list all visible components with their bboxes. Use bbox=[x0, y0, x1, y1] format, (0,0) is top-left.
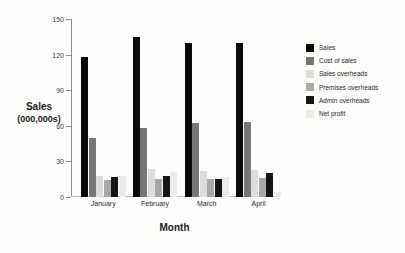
bar bbox=[185, 43, 192, 197]
y-axis-tick-label: 60 bbox=[56, 122, 64, 129]
bar bbox=[133, 37, 140, 197]
y-axis-tick bbox=[66, 161, 71, 162]
bar bbox=[89, 138, 96, 197]
legend-swatch bbox=[306, 96, 314, 104]
legend: SalesCost of salesSales overheadsPremise… bbox=[306, 41, 378, 120]
y-axis-tick bbox=[66, 126, 71, 127]
y-axis-tick bbox=[66, 55, 71, 56]
bar-group bbox=[81, 19, 126, 197]
bar bbox=[140, 128, 147, 197]
legend-swatch bbox=[306, 44, 314, 52]
bar-group bbox=[133, 19, 178, 197]
bar-group bbox=[236, 19, 281, 197]
y-axis-line bbox=[71, 19, 72, 197]
legend-swatch bbox=[306, 110, 314, 118]
bar bbox=[111, 177, 118, 197]
bar bbox=[222, 177, 229, 197]
y-axis-tick bbox=[66, 197, 71, 198]
bar bbox=[163, 176, 170, 197]
legend-swatch bbox=[306, 57, 314, 65]
legend-label: Admin overheads bbox=[319, 97, 370, 104]
bar bbox=[236, 43, 243, 197]
legend-label: Sales bbox=[319, 44, 335, 51]
bar bbox=[148, 169, 155, 197]
y-axis-tick-label: 150 bbox=[52, 16, 64, 23]
y-axis-tick bbox=[66, 90, 71, 91]
legend-item[interactable]: Sales bbox=[306, 41, 378, 54]
y-axis-tick-label: 90 bbox=[56, 87, 64, 94]
legend-label: Sales overheads bbox=[319, 70, 367, 77]
y-axis-tick-label: 120 bbox=[52, 51, 64, 58]
y-axis-tick-label: 0 bbox=[60, 194, 64, 201]
x-axis-title: Month bbox=[71, 222, 278, 233]
bar bbox=[266, 173, 273, 197]
bar-group bbox=[185, 19, 230, 197]
x-axis-tick-label: April bbox=[251, 200, 265, 207]
bar bbox=[215, 179, 222, 197]
legend-item[interactable]: Net profit bbox=[306, 107, 378, 120]
bar bbox=[155, 179, 162, 197]
y-axis-tick bbox=[66, 19, 71, 20]
bar bbox=[251, 170, 258, 197]
y-axis-tick-label: 30 bbox=[56, 158, 64, 165]
x-axis-tick-label: March bbox=[197, 200, 216, 207]
legend-item[interactable]: Sales overheads bbox=[306, 67, 378, 80]
legend-swatch bbox=[306, 83, 314, 91]
legend-item[interactable]: Premises overheads bbox=[306, 81, 378, 94]
bar bbox=[259, 178, 266, 197]
legend-swatch bbox=[306, 70, 314, 78]
bar bbox=[81, 57, 88, 197]
bar bbox=[119, 176, 126, 197]
bar bbox=[170, 172, 177, 197]
bar bbox=[104, 180, 111, 197]
y-axis-title-line1: Sales bbox=[8, 101, 70, 114]
legend-item[interactable]: Admin overheads bbox=[306, 94, 378, 107]
bar bbox=[200, 171, 207, 197]
x-axis-tick-label: January bbox=[91, 200, 116, 207]
legend-label: Cost of sales bbox=[319, 57, 357, 64]
x-axis-tick-label: February bbox=[141, 200, 169, 207]
bar bbox=[207, 179, 214, 197]
bar bbox=[244, 122, 251, 197]
y-axis-title: Sales (000,000s) bbox=[8, 101, 70, 125]
bar bbox=[96, 176, 103, 197]
bar bbox=[192, 123, 199, 197]
legend-label: Premises overheads bbox=[319, 84, 378, 91]
bar bbox=[274, 192, 281, 197]
bar-chart: Sales (000,000s) 0306090120150 JanuaryFe… bbox=[0, 0, 405, 253]
plot-area: 0306090120150 JanuaryFebruaryMarchApril bbox=[71, 19, 278, 197]
legend-label: Net profit bbox=[319, 110, 345, 117]
legend-item[interactable]: Cost of sales bbox=[306, 54, 378, 67]
